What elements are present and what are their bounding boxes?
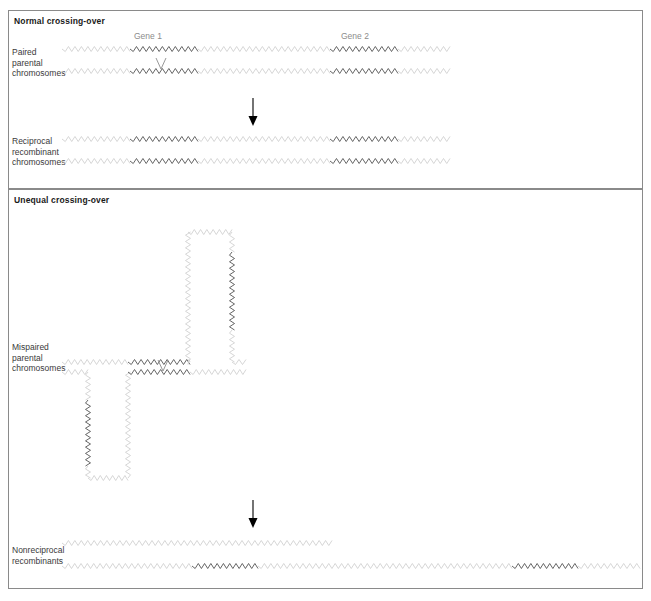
label-paired-parental-chromosomes: Paired parental chromosomes [12, 47, 65, 79]
crossing-over-figure: Normal crossing-over Unequal crossing-ov… [0, 0, 651, 601]
gene-2-caption: Gene 2 [341, 31, 369, 41]
label-mispaired-parental-chromosomes: Mispaired parental chromosomes [12, 342, 65, 374]
panel-unequal-crossing-over [8, 189, 643, 589]
panel-title-unequal: Unequal crossing-over [14, 195, 109, 205]
panel-title-normal: Normal crossing-over [14, 16, 105, 26]
label-reciprocal-recombinant-chromosomes: Reciprocal recombinant chromosomes [12, 136, 65, 168]
label-nonreciprocal-recombinants: Nonreciprocal recombinants [12, 545, 64, 566]
panel-normal-crossing-over [8, 10, 643, 189]
gene-1-caption: Gene 1 [134, 31, 162, 41]
